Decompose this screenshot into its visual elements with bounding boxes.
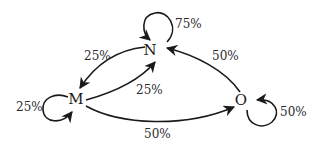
node-o: O (235, 91, 247, 109)
edge-label-m-to-m: 25% (16, 100, 43, 114)
edge-label-n-to-m: 25% (84, 49, 111, 63)
edge-label-m-to-o: 50% (144, 127, 171, 141)
edge-label-o-to-n: 50% (212, 49, 239, 63)
edge-label-m-to-n: 25% (136, 83, 163, 97)
node-n: N (143, 41, 156, 59)
edge-o-to-o (247, 100, 277, 126)
edge-m-to-o (86, 106, 234, 122)
node-m: M (68, 90, 83, 108)
edge-label-n-to-n: 75% (175, 17, 202, 31)
state-transition-diagram: N M O 75% 25% 25% 25% 50% 50% 50% (0, 0, 321, 148)
edge-n-to-n (144, 13, 173, 42)
edge-label-o-to-o: 50% (280, 105, 307, 119)
